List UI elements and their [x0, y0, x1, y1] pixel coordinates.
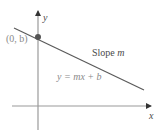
diagram-canvas: y x (0, b) Slope m y = mx + b	[0, 0, 166, 137]
equation-label: y = mx + b	[56, 71, 102, 82]
intercept-label: (0, b)	[6, 33, 28, 45]
y-intercept-point	[35, 34, 41, 40]
x-axis-label: x	[148, 110, 154, 121]
slope-label: Slope m	[92, 47, 125, 58]
slope-intercept-diagram: y x (0, b) Slope m y = mx + b	[0, 0, 166, 137]
slope-label-prefix: Slope	[92, 47, 117, 58]
slope-label-var: m	[117, 47, 124, 58]
y-axis-label: y	[42, 12, 48, 23]
